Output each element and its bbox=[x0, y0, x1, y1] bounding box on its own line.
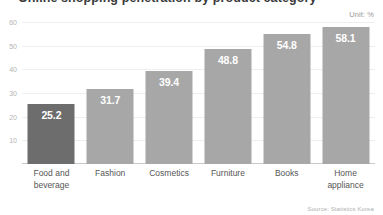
y-axis-tick-label: 50 bbox=[9, 42, 17, 49]
x-axis-category-label: Homeappliance bbox=[316, 168, 375, 191]
bar-slot: 58.1 bbox=[316, 22, 375, 164]
x-axis-category-line: Books bbox=[257, 168, 316, 180]
x-axis-category-line: Fashion bbox=[81, 168, 140, 180]
bar-slot: 25.2 bbox=[22, 22, 81, 164]
x-axis-category-line: beverage bbox=[22, 180, 81, 192]
bar-slot: 31.7 bbox=[81, 22, 140, 164]
x-axis-category-label: Books bbox=[257, 168, 316, 180]
x-axis-category-line: Cosmetics bbox=[140, 168, 199, 180]
bar-value-label: 54.8 bbox=[263, 39, 310, 51]
y-axis-tick-label: 30 bbox=[9, 90, 17, 97]
y-axis-tick-label: 60 bbox=[9, 19, 17, 26]
y-axis-tick-label: 40 bbox=[9, 66, 17, 73]
bar[interactable]: 54.8 bbox=[263, 34, 310, 164]
bar-slot: 39.4 bbox=[140, 22, 199, 164]
bar[interactable]: 39.4 bbox=[146, 71, 193, 164]
bar[interactable]: 48.8 bbox=[204, 49, 251, 164]
source-annotation: Source: Statistics Korea bbox=[308, 206, 374, 212]
x-axis-category-label: Food andbeverage bbox=[22, 168, 81, 191]
bar-slot: 54.8 bbox=[257, 22, 316, 164]
bar-value-label: 31.7 bbox=[87, 94, 134, 106]
bar[interactable]: 31.7 bbox=[87, 89, 134, 164]
bar-value-label: 39.4 bbox=[146, 76, 193, 88]
unit-annotation: Unit: % bbox=[349, 10, 374, 19]
bar-value-label: 25.2 bbox=[28, 109, 75, 121]
x-axis-category-label: Cosmetics bbox=[140, 168, 199, 180]
bar-series: 25.231.739.448.854.858.1 bbox=[22, 22, 375, 164]
page-title: Online shopping penetration by product c… bbox=[18, 0, 316, 5]
bar[interactable]: 25.2 bbox=[28, 104, 75, 164]
plot-area: 102030405060 25.231.739.448.854.858.1 bbox=[22, 22, 375, 164]
x-axis-category-line: appliance bbox=[316, 180, 375, 192]
bar-value-label: 48.8 bbox=[204, 54, 251, 66]
chart-title-strip: Online shopping penetration by product c… bbox=[0, 0, 383, 7]
x-axis-category-line: Food and bbox=[22, 168, 81, 180]
x-axis-labels: Food andbeverageFashionCosmeticsFurnitur… bbox=[22, 168, 375, 202]
bar-chart: Online shopping penetration by product c… bbox=[0, 0, 383, 215]
bar-value-label: 58.1 bbox=[322, 32, 369, 44]
x-axis-category-line: Furniture bbox=[199, 168, 258, 180]
x-axis-category-line: Home bbox=[316, 168, 375, 180]
x-axis-category-label: Furniture bbox=[199, 168, 258, 180]
bar-slot: 48.8 bbox=[199, 22, 258, 164]
y-axis-tick-label: 20 bbox=[9, 113, 17, 120]
bar[interactable]: 58.1 bbox=[322, 27, 369, 165]
x-axis-category-label: Fashion bbox=[81, 168, 140, 180]
y-axis-tick-label: 10 bbox=[9, 137, 17, 144]
